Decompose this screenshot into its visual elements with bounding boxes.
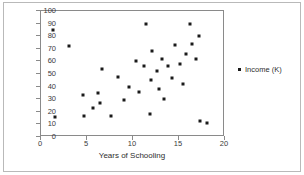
data-point	[128, 85, 131, 88]
data-point	[100, 67, 103, 70]
data-point	[199, 119, 202, 122]
data-point	[189, 22, 192, 25]
y-axis-tick-label: 20	[30, 107, 56, 115]
data-point	[148, 113, 151, 116]
y-axis-tick-label: 50	[30, 70, 56, 78]
data-point	[161, 57, 164, 60]
x-axis-tick-mark	[178, 136, 179, 140]
y-axis-tick-label: 70	[30, 44, 56, 52]
data-point	[53, 115, 56, 118]
x-axis-tick-label: 0	[30, 140, 50, 148]
x-axis-tick-label: 10	[122, 140, 142, 148]
data-point	[170, 76, 173, 79]
legend-item-label: Income (K)	[245, 66, 282, 74]
legend-square-marker	[238, 68, 241, 71]
data-point	[205, 122, 208, 125]
plot-area	[40, 10, 224, 136]
x-axis-tick-label: 15	[168, 140, 188, 148]
y-axis-tick-mark	[36, 86, 40, 87]
data-point	[190, 42, 193, 45]
data-point	[157, 88, 160, 91]
data-point	[198, 35, 201, 38]
data-point	[122, 99, 125, 102]
x-axis-tick-mark	[86, 136, 87, 140]
data-point	[166, 65, 169, 68]
data-point	[155, 70, 158, 73]
y-axis-tick-mark	[36, 23, 40, 24]
y-axis-tick-mark	[36, 10, 40, 11]
y-axis-tick-label: 90	[30, 19, 56, 27]
data-point	[109, 114, 112, 117]
data-points-layer	[41, 11, 223, 135]
y-axis-tick-label: 40	[30, 82, 56, 90]
data-point	[185, 52, 188, 55]
x-axis-tick-mark	[132, 136, 133, 140]
x-axis-tick-mark	[40, 136, 41, 140]
data-point	[144, 22, 147, 25]
y-axis-tick-label: 80	[30, 32, 56, 40]
x-axis-tick-mark	[224, 136, 225, 140]
data-point	[117, 75, 120, 78]
data-point	[134, 60, 137, 63]
data-point	[163, 98, 166, 101]
y-axis-tick-label: 10	[30, 120, 56, 128]
y-axis-tick-mark	[36, 73, 40, 74]
y-axis-tick-mark	[36, 123, 40, 124]
scatter-chart-figure: Years of Schooling Income (K) 0102030405…	[0, 0, 304, 175]
data-point	[151, 50, 154, 53]
x-axis-tick-label: 5	[76, 140, 96, 148]
data-point	[97, 91, 100, 94]
y-axis-tick-label: 60	[30, 57, 56, 65]
data-point	[194, 57, 197, 60]
data-point	[82, 94, 85, 97]
data-point	[181, 83, 184, 86]
y-axis-tick-label: 30	[30, 95, 56, 103]
y-axis-tick-mark	[36, 35, 40, 36]
x-axis-title: Years of Schooling	[40, 152, 224, 160]
data-point	[178, 62, 181, 65]
data-point	[91, 107, 94, 110]
data-point	[83, 114, 86, 117]
data-point	[150, 79, 153, 82]
data-point	[143, 65, 146, 68]
y-axis-tick-mark	[36, 111, 40, 112]
legend: Income (K)	[238, 66, 282, 74]
data-point	[137, 90, 140, 93]
y-axis-tick-mark	[36, 60, 40, 61]
y-axis-tick-label: 0	[30, 133, 56, 141]
y-axis-tick-label: 100	[30, 7, 56, 15]
y-axis-tick-mark	[36, 48, 40, 49]
data-point	[98, 101, 101, 104]
x-axis-tick-label: 20	[214, 140, 234, 148]
data-point	[174, 44, 177, 47]
y-axis-tick-mark	[36, 98, 40, 99]
data-point	[67, 45, 70, 48]
